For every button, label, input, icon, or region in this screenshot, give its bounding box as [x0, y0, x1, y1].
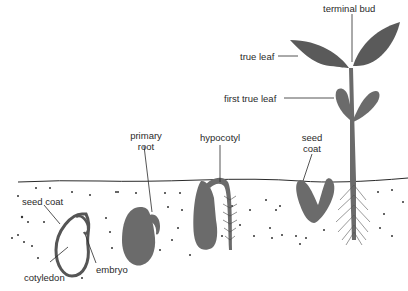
label-primary-root-line1: primary — [126, 130, 166, 141]
label-primary-root-line2: root — [126, 141, 166, 152]
label-terminal-bud: terminal bud — [323, 3, 375, 14]
label-seed-coat-2-line2: coat — [300, 143, 324, 154]
diagram-canvas — [0, 0, 408, 291]
stage-5-seedling — [278, 14, 400, 245]
label-true-leaf: true leaf — [240, 51, 274, 62]
label-embryo: embryo — [96, 264, 128, 275]
germination-diagram: seed coat cotyledon embryo primary root … — [0, 0, 408, 291]
label-seed-coat-2-line1: seed — [300, 132, 324, 143]
stage-4-seed-coat — [296, 154, 334, 223]
label-hypocotyl: hypocotyl — [200, 132, 240, 143]
stage-3-hypocotyl — [193, 145, 237, 250]
stage-1-seed — [44, 205, 96, 276]
label-first-true-leaf: first true leaf — [224, 93, 276, 104]
label-cotyledon: cotyledon — [24, 272, 65, 283]
stage-2-primary-root — [122, 146, 160, 266]
label-primary-root: primary root — [126, 130, 166, 152]
label-seed-coat-1: seed coat — [22, 196, 63, 207]
label-seed-coat-2: seed coat — [300, 132, 324, 154]
